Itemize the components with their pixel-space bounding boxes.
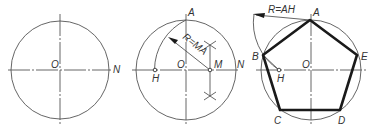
label-d: D [338, 115, 345, 126]
label-a: A [187, 7, 195, 18]
figure-step-1: O N [8, 14, 121, 126]
arrow-head-icon [168, 37, 178, 44]
label-h: H [152, 73, 160, 84]
label-n: N [237, 59, 245, 70]
point-m [208, 68, 212, 72]
label-a: A [312, 7, 320, 18]
label-radius: R=AH [268, 4, 296, 15]
point-h [153, 68, 157, 72]
arrow-head-icon [253, 13, 265, 18]
label-o: O [51, 59, 59, 70]
label-o: O [302, 59, 310, 70]
figure-step-2: A O M N H R=MA [132, 7, 245, 126]
pentagon-construction-diagram: O N A O M N H R=MA [0, 0, 371, 135]
label-radius: R=MA [181, 31, 210, 57]
label-e: E [361, 51, 368, 62]
label-b: B [252, 51, 259, 62]
figure-step-3: R=AH A B E O H C D [252, 4, 368, 126]
label-n: N [113, 64, 121, 75]
label-o: O [177, 59, 185, 70]
label-c: C [274, 115, 282, 126]
label-h: H [277, 73, 285, 84]
point-h [277, 68, 281, 72]
label-m: M [214, 59, 223, 70]
